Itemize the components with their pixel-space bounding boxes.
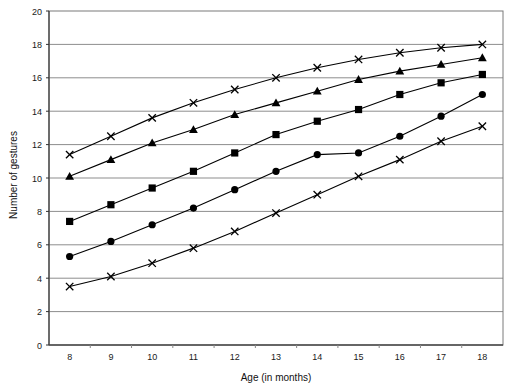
y-tick-label: 16	[32, 73, 42, 83]
chart-container: 02468101214161820 89101112131415161718 N…	[0, 0, 512, 390]
x-tick-label: 16	[395, 352, 405, 362]
y-tick-label: 6	[37, 240, 42, 250]
y-axis-label: Number of gestures	[8, 131, 19, 219]
y-tick-label: 20	[32, 7, 42, 17]
x-tick-label: 12	[230, 352, 240, 362]
x-tick-label: 10	[147, 352, 157, 362]
x-tick-label: 11	[189, 352, 198, 362]
x-tick-label: 9	[108, 352, 113, 362]
x-tick-label: 13	[271, 352, 281, 362]
x-tick-label: 8	[67, 352, 72, 362]
y-tick-label: 10	[32, 174, 42, 184]
x-tick-label: 17	[436, 352, 446, 362]
y-tick-label: 14	[32, 107, 42, 117]
y-tick-label: 8	[37, 207, 42, 217]
y-tick-label: 2	[37, 307, 42, 317]
line-chart: 02468101214161820 89101112131415161718 N…	[0, 0, 512, 390]
x-tick-label: 14	[312, 352, 322, 362]
y-tick-label: 4	[37, 274, 42, 284]
y-tick-label: 18	[32, 40, 42, 50]
y-tick-label: 12	[32, 140, 42, 150]
x-axis-label: Age (in months)	[241, 372, 312, 383]
chart-background	[0, 0, 512, 390]
y-tick-label: 0	[37, 341, 42, 351]
x-tick-label: 15	[354, 352, 364, 362]
x-tick-label: 18	[477, 352, 487, 362]
